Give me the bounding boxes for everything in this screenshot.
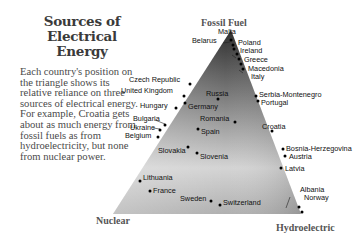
label-italy: Italy: [251, 72, 265, 81]
label-latvia: Latvia: [285, 164, 305, 173]
label-belarus: Belarus: [192, 36, 217, 45]
label-sweden: Sweden: [180, 194, 206, 203]
label-bulgaria: Bulgaria: [133, 114, 161, 123]
label-croatia: Croatia: [262, 122, 286, 131]
label-austria: Austria: [289, 152, 313, 161]
label-romania: Romania: [200, 114, 230, 123]
label-spain: Spain: [201, 127, 220, 136]
label-czech-republic: Czech Republic: [129, 75, 180, 84]
label-france: France: [153, 186, 176, 195]
label-russia: Russia: [206, 89, 229, 98]
label-portugal: Portugal: [261, 98, 289, 107]
label-switzerland: Switzerland: [223, 198, 261, 207]
label-germany: Germany: [188, 102, 218, 111]
label-belgium: Belgium: [125, 131, 151, 140]
label-slovenia: Slovenia: [200, 152, 229, 161]
label-norway: Norway: [304, 193, 329, 202]
label-malta: Malta: [218, 27, 237, 36]
ternary-triangle-diagram: Malta Belarus Poland Ireland Greece Mace…: [0, 0, 363, 237]
label-hungary: Hungary: [140, 101, 168, 110]
label-lithuania: Lithuania: [143, 173, 174, 182]
label-ireland: Ireland: [240, 46, 262, 55]
label-united-kingdom: United Kingdom: [121, 86, 173, 95]
label-slovakia: Slovakia: [158, 146, 187, 155]
label-greece: Greece: [244, 55, 268, 64]
